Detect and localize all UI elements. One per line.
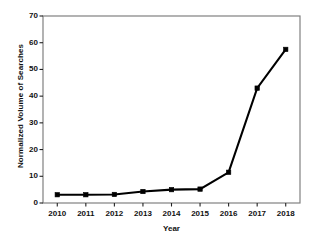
plot-frame bbox=[43, 16, 300, 203]
data-point-marker bbox=[141, 189, 145, 193]
data-point-marker bbox=[198, 187, 202, 191]
plot-frame-rect bbox=[43, 16, 300, 203]
data-point-marker bbox=[169, 187, 173, 191]
chart-container: Normalized Volume of Searches 0102030405… bbox=[0, 0, 317, 244]
plot-area bbox=[0, 0, 317, 244]
data-point-marker bbox=[255, 86, 259, 90]
data-point-marker bbox=[284, 47, 288, 51]
data-point-marker bbox=[84, 193, 88, 197]
data-point-marker bbox=[226, 170, 230, 174]
data-point-marker bbox=[55, 193, 59, 197]
data-point-marker bbox=[112, 192, 116, 196]
